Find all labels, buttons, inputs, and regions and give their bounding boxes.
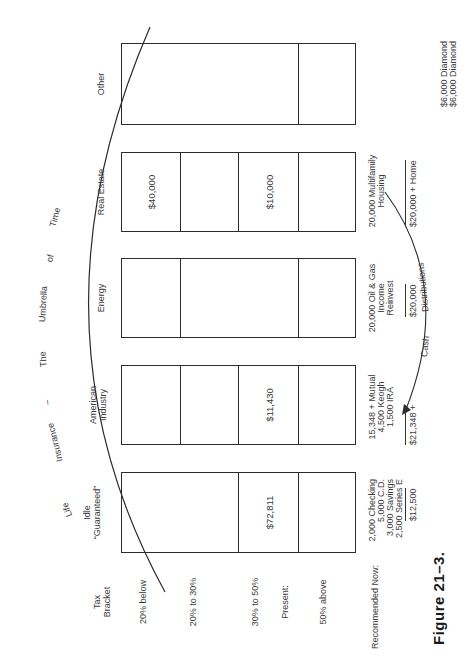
divider (180, 366, 181, 444)
recommended-energy: 20,000 Oil & Gas Income Reinvest (368, 251, 395, 345)
other-diamond-notes: $6,000 Diamond $6,000 Diamond (440, 41, 458, 127)
column-header-energy: Energy (96, 258, 106, 338)
arc-word: of (44, 254, 55, 263)
row-label-present: Present: (280, 567, 290, 637)
divider (238, 473, 239, 552)
box-american-industry: $11,430 (121, 365, 356, 445)
box-other (121, 43, 356, 125)
column-header-real-estate: Real Estate (96, 152, 106, 232)
divider (298, 366, 299, 444)
box-real-estate: $40,000 $10,000 (121, 152, 356, 232)
divider (180, 153, 181, 231)
divider (298, 44, 299, 124)
column-header-idle: Idle “Guaranteed” (82, 472, 102, 553)
row-label-20-to-30: 20% to 30% (188, 567, 198, 637)
value-idle-present: $72,811 (264, 473, 275, 552)
row-label-20-below: 20% below (138, 567, 148, 637)
arc-word: Umbrella (37, 286, 49, 322)
value-real-estate-top: $40,000 (146, 153, 157, 231)
row-label-recommended-now: Recommended Now: (370, 565, 380, 649)
column-header-american-industry: American Industry (88, 365, 108, 445)
figure-caption: Figure 21–3. (430, 551, 447, 645)
divider (298, 259, 299, 337)
divider (298, 473, 299, 552)
total-energy: $20,000 (405, 284, 418, 317)
divider (298, 153, 299, 231)
total-idle: $12,500 (405, 488, 418, 521)
box-idle: $72,811 (121, 472, 356, 553)
divider (238, 153, 239, 231)
total-real-estate: $20,000 + Home (405, 160, 418, 227)
row-header-tax-bracket: Tax Bracket (92, 567, 112, 637)
total-american-industry: $21,348 + (405, 405, 418, 445)
figure-21-3: Life Insurance – The Umbrella of Time Id… (0, 0, 473, 667)
arc-word: The (37, 351, 48, 367)
row-label-30-to-50: 30% to 50% (250, 567, 260, 637)
recommended-idle: 2,000 Checking 5,000 C.D. 3,000 Savings … (368, 479, 404, 557)
box-energy (121, 258, 356, 338)
divider (180, 259, 181, 337)
row-label-50-above: 50% above (318, 567, 328, 637)
value-american-industry-present: $11,430 (264, 366, 275, 444)
value-real-estate-present: $10,000 (264, 153, 275, 231)
recommended-real-estate: 20,000 Multifamily Housing (368, 143, 386, 239)
column-header-other: Other (96, 43, 106, 125)
divider (238, 366, 239, 444)
recommended-american-industry: 15,348 + Mutual 4,500 Keogh 1,500 IRA (368, 362, 395, 452)
